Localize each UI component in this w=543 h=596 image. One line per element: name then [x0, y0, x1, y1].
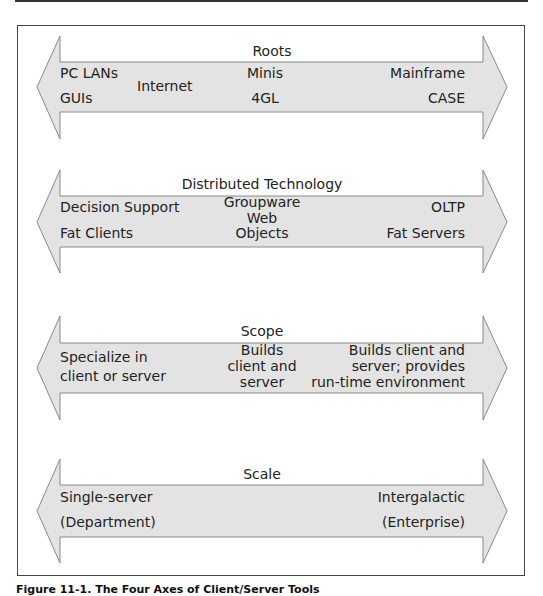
scope-middle-2: client and [227, 358, 296, 375]
roots-middle-left: Internet [137, 78, 193, 95]
distributed-middle-1: Groupware [224, 194, 301, 211]
scale-right-1: Intergalactic [378, 489, 465, 506]
scope-left-1: Specialize in [60, 349, 148, 366]
axis-title-roots: Roots [252, 43, 291, 60]
scope-right-3: run-time environment [311, 374, 465, 391]
axis-title-scope: Scope [241, 323, 284, 340]
scale-left-2: (Department) [60, 514, 156, 531]
distributed-right-2: Fat Servers [387, 225, 466, 242]
roots-middle-1: Minis [247, 65, 283, 82]
scope-right-1: Builds client and [349, 342, 465, 359]
roots-left-2: GUIs [60, 90, 93, 107]
distributed-middle-3: Objects [236, 225, 289, 242]
distributed-left-2: Fat Clients [60, 225, 133, 242]
scope-left-2: client or server [60, 368, 166, 385]
scale-right-2: (Enterprise) [382, 514, 465, 531]
roots-right-2: CASE [428, 90, 465, 107]
roots-middle-2: 4GL [251, 90, 279, 107]
roots-left-1: PC LANs [60, 65, 118, 82]
roots-right-1: Mainframe [390, 65, 465, 82]
scope-right-2: server; provides [352, 358, 465, 375]
distributed-left-1: Decision Support [60, 199, 179, 216]
axis-title-distributed-technology: Distributed Technology [182, 176, 343, 193]
axis-title-scale: Scale [243, 466, 281, 483]
distributed-right-1: OLTP [431, 199, 465, 216]
figure-caption: Figure 11-1. The Four Axes of Client/Ser… [16, 583, 320, 596]
scope-middle-3: server [240, 374, 284, 391]
scale-left-1: Single-server [60, 489, 152, 506]
scope-middle-1: Builds [241, 342, 283, 359]
